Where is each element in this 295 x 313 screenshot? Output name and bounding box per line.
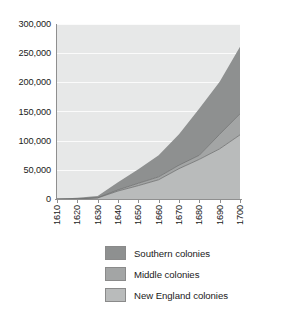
x-axis-tick-label: 1650 [133, 205, 143, 225]
x-axis-tick [179, 199, 180, 203]
legend-item-middle-colonies: Middle colonies [105, 264, 255, 284]
y-axis-tick-label: 250,000 [18, 48, 51, 58]
x-axis-tick [159, 199, 160, 203]
y-axis-line [56, 24, 57, 200]
x-axis-tick [220, 199, 221, 203]
legend-item-label: Southern colonies [134, 248, 210, 259]
y-axis-tick-label: 100,000 [18, 136, 51, 146]
chart-legend: Southern colonies Middle colonies New En… [105, 243, 255, 306]
x-axis-tick [77, 199, 78, 203]
x-axis-tick-label: 1700 [235, 205, 245, 225]
x-axis-tick-label: 1630 [93, 205, 103, 225]
x-axis-tick-label: 1610 [52, 205, 62, 225]
x-axis-tick [199, 199, 200, 203]
x-axis-tick-label: 1660 [154, 205, 164, 225]
y-axis-tick-label: 200,000 [18, 77, 51, 87]
x-axis-tick-label: 1620 [72, 205, 82, 225]
x-axis-tick [240, 199, 241, 203]
x-axis-tick [57, 199, 58, 203]
legend-color-swatch [105, 288, 126, 302]
x-axis-tick-label: 1670 [174, 205, 184, 225]
y-axis-labels: 300,000 250,000 200,000 150,000 100,000 … [0, 0, 54, 313]
x-axis-tick [138, 199, 139, 203]
x-axis-tick-label: 1680 [194, 205, 204, 225]
area-series-group [57, 24, 240, 199]
legend-item-southern-colonies: Southern colonies [105, 243, 255, 263]
legend-color-swatch [105, 267, 126, 281]
stacked-area-chart: 300,000 250,000 200,000 150,000 100,000 … [0, 0, 295, 313]
legend-item-label: Middle colonies [134, 269, 199, 280]
x-axis-tick [98, 199, 99, 203]
plot-area [57, 24, 240, 199]
legend-item-new-england-colonies: New England colonies [105, 285, 255, 305]
x-axis-tick [118, 199, 119, 203]
legend-color-swatch [105, 246, 126, 260]
legend-item-label: New England colonies [134, 290, 228, 301]
y-axis-tick-label: 150,000 [18, 107, 51, 117]
x-axis-tick-label: 1640 [113, 205, 123, 225]
y-axis-tick-label: 300,000 [18, 19, 51, 29]
y-axis-tick-label: 50,000 [23, 165, 51, 175]
x-axis-tick-label: 1690 [215, 205, 225, 225]
